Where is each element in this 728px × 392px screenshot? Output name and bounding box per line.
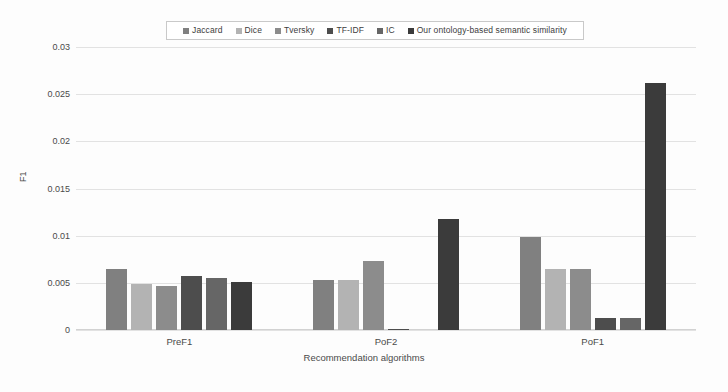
bar[interactable] (570, 269, 591, 330)
bar-groups (76, 47, 696, 330)
legend-item[interactable]: IC (377, 26, 395, 35)
bar[interactable] (206, 278, 227, 330)
legend-item[interactable]: TF-IDF (327, 26, 364, 35)
x-axis-title: Recommendation algorithms (0, 352, 728, 363)
bar[interactable] (131, 284, 152, 330)
bar-group (489, 47, 696, 330)
x-axis-category-label: PreF1 (76, 336, 283, 347)
legend-label: IC (386, 26, 395, 35)
bar[interactable] (595, 318, 616, 330)
legend-label: Our ontology-based semantic similarity (417, 26, 567, 35)
bar[interactable] (338, 280, 359, 330)
y-axis-tick-label: 0.01 (8, 232, 70, 241)
bar[interactable] (181, 276, 202, 330)
legend-label: Jaccard (192, 26, 222, 35)
bar[interactable] (620, 318, 641, 330)
bar[interactable] (156, 286, 177, 330)
legend-item[interactable]: Jaccard (183, 26, 222, 35)
bar[interactable] (520, 237, 541, 330)
y-axis-ticks: 00.0050.010.0150.020.0250.03 (0, 47, 70, 330)
bar-group (283, 47, 490, 330)
legend-swatch-icon (327, 28, 333, 34)
bar[interactable] (645, 83, 666, 330)
y-axis-tick-label: 0.03 (8, 43, 70, 52)
bar[interactable] (363, 261, 384, 330)
plot-area (76, 47, 696, 330)
bar[interactable] (313, 280, 334, 330)
y-axis-tick-label: 0.02 (8, 137, 70, 146)
legend-item[interactable]: Dice (236, 26, 262, 35)
x-axis-categories: PreF1PoF2PoF1 (76, 336, 696, 347)
bar[interactable] (438, 219, 459, 330)
gridline (76, 330, 696, 331)
chart-legend: Jaccard Dice Tversky TF-IDF IC Our ontol… (166, 21, 584, 40)
legend-swatch-icon (236, 28, 242, 34)
legend-label: TF-IDF (336, 26, 364, 35)
bar-group (76, 47, 283, 330)
legend-item[interactable]: Our ontology-based semantic similarity (408, 26, 567, 35)
legend-swatch-icon (377, 28, 383, 34)
x-axis-category-label: PoF2 (283, 336, 490, 347)
legend-swatch-icon (275, 28, 281, 34)
bar[interactable] (231, 282, 252, 330)
x-axis-category-label: PoF1 (489, 336, 696, 347)
bar[interactable] (388, 329, 409, 331)
legend-label: Tversky (284, 26, 314, 35)
y-axis-tick-label: 0.005 (8, 279, 70, 288)
bar[interactable] (545, 269, 566, 330)
bar[interactable] (106, 269, 127, 330)
y-axis-tick-label: 0.025 (8, 90, 70, 99)
y-axis-tick-label: 0.015 (8, 185, 70, 194)
bar-chart: Jaccard Dice Tversky TF-IDF IC Our ontol… (0, 0, 728, 392)
y-axis-tick-label: 0 (8, 326, 70, 335)
legend-swatch-icon (408, 28, 414, 34)
legend-item[interactable]: Tversky (275, 26, 314, 35)
legend-label: Dice (245, 26, 262, 35)
legend-swatch-icon (183, 28, 189, 34)
